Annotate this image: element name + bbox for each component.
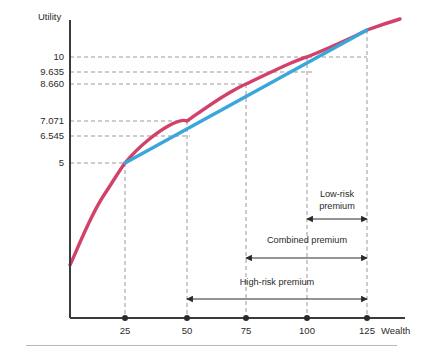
x-tick-label-25: 25	[120, 325, 131, 336]
annotation-low-risk-premium: Low-risk premium	[307, 189, 367, 219]
y-tick-label-5: 5	[59, 157, 64, 168]
x-tick-dot-75	[243, 315, 249, 321]
x-tick-label-100: 100	[299, 325, 315, 336]
utility-curve-red	[70, 19, 400, 265]
x-tick-dot-25	[122, 315, 128, 321]
x-tick-dot-125	[364, 315, 370, 321]
bottom-divider-rule	[26, 345, 397, 346]
y-tick-label-9635: 9.635	[40, 66, 64, 77]
x-tick-dot-100	[304, 315, 310, 321]
y-tick-label-10: 10	[53, 51, 64, 62]
chart-canvas: 10 9.635 8.660 7.071 6.545 5 25 50 75 10…	[0, 0, 423, 358]
y-tick-label-6545: 6.545	[40, 130, 64, 141]
x-tick-label-50: 50	[182, 325, 193, 336]
high-risk-premium-label: High-risk premium	[240, 277, 315, 287]
vertical-gridlines	[125, 30, 367, 318]
y-tick-label-7071: 7.071	[40, 115, 64, 126]
utility-curve-figure: 10 9.635 8.660 7.071 6.545 5 25 50 75 10…	[0, 0, 423, 358]
x-tick-label-75: 75	[241, 325, 252, 336]
x-tick-dot-50	[184, 315, 190, 321]
x-tick-label-125: 125	[359, 325, 375, 336]
y-axis-title: Utility	[38, 11, 61, 22]
y-tick-label-8660: 8.660	[40, 78, 64, 89]
low-risk-premium-label-line2: premium	[319, 201, 355, 211]
combined-premium-label: Combined premium	[267, 235, 348, 245]
annotation-high-risk-premium: High-risk premium	[187, 277, 367, 299]
x-axis-title: Wealth	[381, 325, 410, 336]
low-risk-premium-label-line1: Low-risk	[320, 189, 355, 199]
